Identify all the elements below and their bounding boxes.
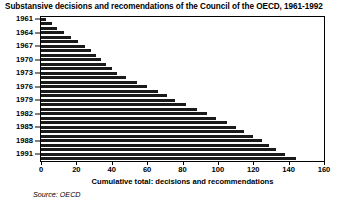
- bar: [41, 94, 167, 97]
- x-tick-label: 40: [108, 166, 116, 174]
- bar: [41, 108, 197, 111]
- bar: [41, 31, 64, 34]
- bar: [41, 99, 175, 102]
- bar: [41, 157, 296, 160]
- x-tick-label: 160: [318, 166, 331, 174]
- bar: [41, 139, 262, 142]
- bar: [41, 27, 57, 30]
- x-axis: 020406080100120140160: [40, 162, 325, 176]
- bars-layer: [41, 17, 324, 161]
- chart-title: Substansive decisions and recomendations…: [5, 2, 349, 12]
- y-tick-label: 1964: [16, 29, 33, 37]
- bar: [41, 22, 52, 25]
- bar: [41, 112, 207, 115]
- bar: [41, 72, 117, 75]
- bar: [41, 121, 227, 124]
- bar-row: [41, 157, 324, 162]
- y-tick-label: 1976: [16, 83, 33, 91]
- bar: [41, 67, 112, 70]
- x-tick-label: 120: [247, 166, 260, 174]
- chart-figure: Substansive decisions and recomendations…: [0, 0, 351, 203]
- y-tick-label: 1979: [16, 96, 33, 104]
- x-tick-label: 80: [178, 166, 186, 174]
- y-tick-label: 1961: [16, 15, 33, 23]
- x-tick-label: 100: [212, 166, 225, 174]
- bar: [41, 103, 186, 106]
- bar: [41, 117, 216, 120]
- y-tick-label: 1988: [16, 137, 33, 145]
- bar: [41, 130, 244, 133]
- bar: [41, 144, 269, 147]
- bar: [41, 90, 158, 93]
- bar: [41, 54, 96, 57]
- bar: [41, 49, 91, 52]
- bar: [41, 58, 101, 61]
- x-tick-label: 20: [72, 166, 80, 174]
- y-tick-label: 1985: [16, 123, 33, 131]
- plot-area: [40, 16, 325, 162]
- bar: [41, 45, 85, 48]
- bar: [41, 63, 106, 66]
- bar: [41, 148, 276, 151]
- y-axis: 1961196419671970197319761979198219851988…: [0, 16, 40, 162]
- bar: [41, 36, 71, 39]
- y-tick-label: 1970: [16, 56, 33, 64]
- bar: [41, 85, 147, 88]
- bar: [41, 81, 137, 84]
- x-tick-label: 140: [282, 166, 295, 174]
- bar: [41, 40, 78, 43]
- y-tick-label: 1991: [16, 150, 33, 158]
- y-tick-label: 1967: [16, 42, 33, 50]
- y-tick-label: 1973: [16, 69, 33, 77]
- bar: [41, 18, 46, 21]
- bar: [41, 76, 126, 79]
- bar: [41, 153, 285, 156]
- x-tick-label: 60: [143, 166, 151, 174]
- bar: [41, 135, 253, 138]
- x-axis-title: Cumulative total: decisions and recommen…: [40, 177, 325, 186]
- bar: [41, 126, 236, 129]
- y-tick-label: 1982: [16, 110, 33, 118]
- source-note: Source: OECD: [33, 190, 81, 199]
- x-tick-label: 0: [39, 166, 43, 174]
